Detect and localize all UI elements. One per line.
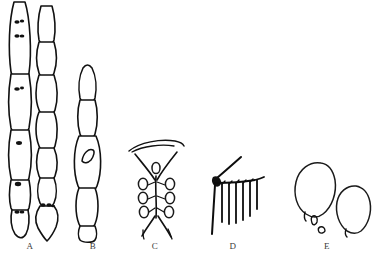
sterigma bbox=[149, 208, 155, 212]
branch-lower-left bbox=[142, 216, 155, 236]
sterigma bbox=[157, 208, 164, 212]
cell-segment bbox=[9, 2, 30, 80]
branch-lower-right bbox=[158, 216, 171, 237]
illustration-plate: A B C D E bbox=[0, 0, 379, 262]
granule bbox=[40, 203, 45, 207]
figure-label-a: A bbox=[20, 241, 40, 251]
granule bbox=[14, 20, 19, 23]
granule bbox=[14, 210, 19, 213]
figure-d-group bbox=[212, 157, 264, 234]
granule bbox=[46, 203, 51, 207]
basal-node bbox=[212, 176, 221, 186]
granule bbox=[14, 34, 19, 37]
figure-label-b: B bbox=[83, 241, 103, 251]
conidium bbox=[139, 206, 148, 218]
spore-large-left bbox=[295, 163, 335, 217]
fragment-small bbox=[318, 227, 325, 233]
figure-b-group bbox=[74, 65, 100, 242]
granule bbox=[15, 182, 21, 186]
cell-segment bbox=[9, 74, 32, 135]
conidium bbox=[165, 192, 174, 204]
granule bbox=[51, 205, 55, 208]
granule bbox=[20, 34, 25, 37]
granule bbox=[16, 141, 22, 145]
spore-large-right bbox=[336, 186, 370, 233]
figure-a-filament-right bbox=[36, 6, 58, 241]
conidium bbox=[165, 178, 174, 190]
figure-a-filament-left bbox=[9, 2, 32, 238]
sterigma bbox=[148, 196, 155, 199]
granule bbox=[20, 210, 25, 213]
figure-label-e: E bbox=[317, 241, 337, 251]
granule bbox=[20, 20, 24, 23]
cell-segment bbox=[9, 130, 32, 185]
conidium bbox=[138, 192, 147, 204]
cell-segment bbox=[37, 148, 57, 181]
granule bbox=[20, 87, 24, 90]
foot-cell bbox=[36, 206, 58, 241]
cell-segment bbox=[37, 42, 57, 78]
sterigma bbox=[148, 182, 155, 185]
figure-e-group bbox=[295, 163, 370, 237]
sterigma bbox=[157, 196, 165, 199]
cell-segment bbox=[38, 178, 57, 207]
figure-c-group bbox=[129, 140, 184, 239]
seta-long bbox=[212, 185, 215, 234]
cell-segment bbox=[76, 188, 98, 229]
figure-label-c: C bbox=[145, 241, 165, 251]
plate-drawing-canvas bbox=[0, 0, 379, 262]
figure-a-group bbox=[9, 2, 58, 241]
cell-segment bbox=[36, 75, 57, 115]
figure-label-d: D bbox=[223, 241, 243, 251]
cell-segment bbox=[36, 112, 57, 151]
hypha-main bbox=[217, 157, 241, 178]
conidium bbox=[164, 206, 173, 218]
granule bbox=[14, 87, 20, 91]
cell-segment-basal bbox=[79, 226, 97, 242]
cell-segment bbox=[78, 100, 98, 139]
sterigma bbox=[157, 182, 165, 185]
cell-segment bbox=[11, 210, 29, 238]
conidium-apical bbox=[152, 162, 160, 173]
cell-segment bbox=[38, 6, 55, 45]
cell-segment-apical bbox=[79, 65, 96, 103]
conidium bbox=[138, 178, 147, 190]
central-axis bbox=[156, 176, 157, 218]
cell-segment-swollen bbox=[74, 136, 100, 192]
